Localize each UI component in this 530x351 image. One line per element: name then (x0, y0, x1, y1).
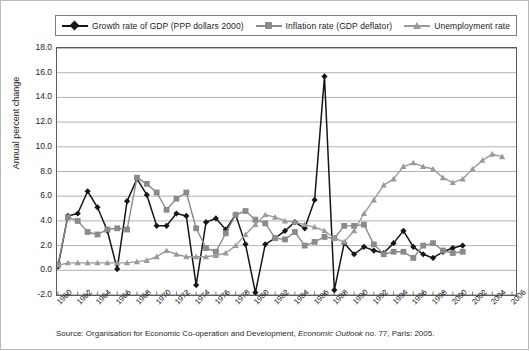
x-tick-label: 2000 (450, 288, 469, 307)
x-tick-label: 1998 (430, 288, 449, 307)
x-tick-label: 1992 (371, 288, 390, 307)
x-tick-label: 1988 (331, 288, 350, 307)
x-tick-label: 1964 (94, 288, 113, 307)
x-tick-label: 2006 (509, 288, 528, 307)
chart-figure: Growth rate of GDP (PPP dollars 2000) In… (0, 0, 530, 351)
x-tick-label: 1994 (391, 288, 410, 307)
x-tick-label: 2002 (470, 288, 489, 307)
x-tick-label: 1966 (114, 288, 133, 307)
x-tick-label: 1978 (233, 288, 252, 307)
x-tick-label: 1960 (55, 288, 74, 307)
x-tick-label: 1986 (312, 288, 331, 307)
source-suffix: no. 77, Paris: 2005. (363, 329, 435, 338)
x-tick-label: 1962 (75, 288, 94, 307)
x-tick-label: 1974 (193, 288, 212, 307)
x-tick-label: 1972 (173, 288, 192, 307)
x-tick-label: 1996 (410, 288, 429, 307)
x-tick-label: 1982 (272, 288, 291, 307)
x-tick-label: 1968 (134, 288, 153, 307)
source-prefix: Source: Organisation for Economic Co-ope… (56, 329, 298, 338)
x-tick-label: 1976 (213, 288, 232, 307)
x-tick-label: 1970 (154, 288, 173, 307)
source-note: Source: Organisation for Economic Co-ope… (56, 329, 526, 338)
x-tick-label: 2004 (489, 288, 508, 307)
source-italic: Economic Outlook (298, 329, 363, 338)
x-tick-label: 1990 (351, 288, 370, 307)
x-tick-label: 1984 (292, 288, 311, 307)
x-axis-tick-labels: 1960196219641966196819701972197419761978… (0, 0, 530, 351)
x-tick-label: 1980 (252, 288, 271, 307)
